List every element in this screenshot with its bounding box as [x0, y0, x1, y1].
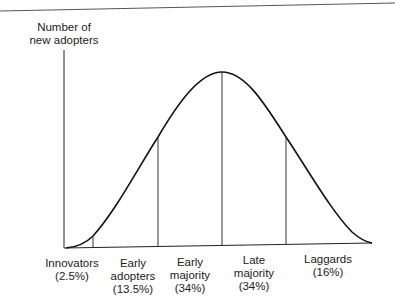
label-early-majority: Early majority (34%): [170, 256, 210, 295]
label-early-adopters: Early adopters (13.5%): [111, 257, 156, 296]
label-innovators: Innovators (2.5%): [45, 257, 99, 283]
label-line: Laggards: [304, 253, 352, 266]
label-line: Innovators: [45, 257, 99, 270]
label-line: majority: [170, 269, 210, 282]
label-line: majority: [234, 267, 274, 280]
label-line: Early: [111, 257, 156, 270]
label-pct: (2.5%): [45, 270, 99, 283]
y-axis-label-line1: Number of: [29, 21, 98, 34]
label-line: adopters: [111, 270, 156, 283]
x-axis-baseline: [64, 243, 372, 248]
top-rule: [0, 3, 395, 11]
label-pct: (16%): [304, 266, 352, 279]
bell-curve: [66, 72, 372, 248]
label-pct: (13.5%): [111, 283, 156, 296]
label-laggards: Laggards (16%): [304, 253, 352, 279]
y-axis-label: Number of new adopters: [29, 21, 98, 47]
label-pct: (34%): [170, 282, 210, 295]
label-line: Late: [234, 254, 274, 267]
label-late-majority: Late majority (34%): [234, 254, 274, 293]
y-axis-label-line2: new adopters: [29, 34, 98, 47]
label-line: Early: [170, 256, 210, 269]
label-pct: (34%): [234, 280, 274, 293]
